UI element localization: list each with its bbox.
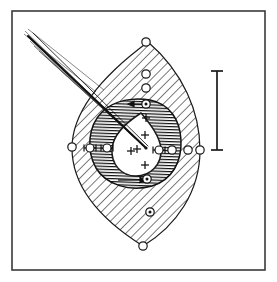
figure-root [0,0,277,282]
circle-marker [139,242,147,250]
dotted-circle-marker [142,100,150,108]
diagram-canvas [0,0,277,282]
circle-marker [184,146,192,154]
dotted-circle-marker [143,175,151,183]
circle-marker [168,146,176,154]
circle-marker [142,70,150,78]
circle-marker [142,84,150,92]
circle-marker [196,146,204,154]
dotted-circle-marker [146,208,154,216]
circle-marker [68,143,76,151]
circle-marker [142,38,150,46]
